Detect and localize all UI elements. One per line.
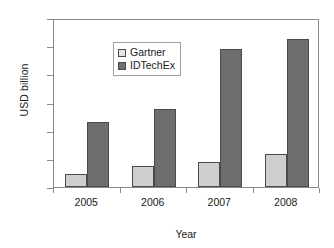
legend-label-idtechex: IDTechEx bbox=[130, 59, 175, 72]
legend: Gartner IDTechEx bbox=[113, 42, 181, 76]
bars-layer bbox=[54, 20, 318, 187]
legend-swatch-icon-gartner bbox=[118, 49, 126, 57]
plot-area: Gartner IDTechEx bbox=[53, 19, 319, 188]
bar-chart: USD billion 0123456 Gartner IDTechEx 200… bbox=[0, 0, 334, 248]
bar-idtechex-2008[interactable] bbox=[287, 39, 309, 187]
x-axis-category-label-2008: 2008 bbox=[274, 196, 297, 208]
x-axis-tick-mark bbox=[319, 188, 320, 193]
x-axis-tick-mark bbox=[186, 188, 187, 193]
legend-item-gartner[interactable]: Gartner bbox=[118, 46, 175, 59]
x-axis-tick-mark bbox=[120, 188, 121, 193]
legend-item-idtechex[interactable]: IDTechEx bbox=[118, 59, 175, 72]
legend-swatch-icon-idtechex bbox=[118, 62, 126, 70]
bar-gartner-2006[interactable] bbox=[132, 166, 154, 187]
bar-idtechex-2005[interactable] bbox=[87, 122, 109, 187]
x-axis-category-label-2005: 2005 bbox=[75, 196, 98, 208]
x-axis-category-label-2006: 2006 bbox=[141, 196, 164, 208]
x-axis-category-label-2007: 2007 bbox=[208, 196, 231, 208]
x-axis-tick-mark bbox=[253, 188, 254, 193]
bar-gartner-2007[interactable] bbox=[198, 162, 220, 187]
bar-idtechex-2006[interactable] bbox=[154, 109, 176, 187]
y-axis-title: USD billion bbox=[18, 30, 30, 150]
x-axis-title: Year bbox=[53, 228, 319, 240]
bar-idtechex-2007[interactable] bbox=[220, 49, 242, 187]
bar-gartner-2005[interactable] bbox=[65, 174, 87, 187]
bar-gartner-2008[interactable] bbox=[265, 154, 287, 187]
legend-label-gartner: Gartner bbox=[130, 46, 166, 59]
x-axis-tick-mark bbox=[53, 188, 54, 193]
